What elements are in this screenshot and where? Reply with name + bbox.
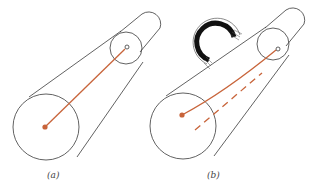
shaft-torsion-diagram [0,0,328,190]
cone-side-top-a [29,31,121,97]
panel-label-b: (b) [207,170,220,180]
base-center-dot-b [179,112,184,117]
reference-line-a [42,49,125,130]
base-circle-b [150,93,216,159]
twisted-line-b [179,50,276,118]
center-hole-a [125,45,129,49]
cone-side-top-b [166,27,266,96]
panel-b [150,8,305,159]
center-hole-b [276,47,280,51]
shaft-end-cylinder-b [265,8,305,46]
small-end-circle-b [257,28,289,60]
curved-torque-arrow-icon [193,18,242,69]
panel-label-a: (a) [47,170,59,180]
base-center-dot-a [42,124,47,129]
cone-side-bottom-a [77,62,143,157]
